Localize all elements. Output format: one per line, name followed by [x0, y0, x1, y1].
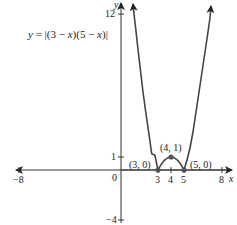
tick-label-x-5: 5 — [181, 175, 186, 185]
tick-label-y-neg4: −4 — [106, 215, 117, 225]
tick-label-x-neg8: −8 — [13, 175, 24, 185]
tick-label-x-4: 4 — [168, 175, 173, 185]
point-label-5-0: (5, 0) — [190, 160, 212, 170]
x-axis-label: x — [229, 174, 233, 184]
point-3-0 — [155, 167, 160, 172]
point-label-3-0: (3, 0) — [129, 160, 151, 170]
curve-right-branch — [184, 6, 211, 170]
point-5-0 — [181, 167, 186, 172]
tick-label-y-1: 1 — [111, 152, 116, 162]
tick-label-y-12: 12 — [105, 9, 115, 19]
equation-label: y = |(3 − x)(5 − x)| — [28, 29, 108, 40]
equation-part-1: = |(3 − — [33, 28, 68, 40]
tick-label-x-3: 3 — [155, 175, 160, 185]
tick-label-x-8: 8 — [219, 175, 224, 185]
tick-label-origin: 0 — [112, 173, 117, 183]
point-4-1 — [168, 154, 173, 159]
curve-left-branch — [133, 4, 158, 170]
equation-part-2: )(5 − — [73, 28, 98, 40]
equation-part-3: )| — [102, 28, 108, 40]
point-label-4-1: (4, 1) — [160, 143, 182, 153]
